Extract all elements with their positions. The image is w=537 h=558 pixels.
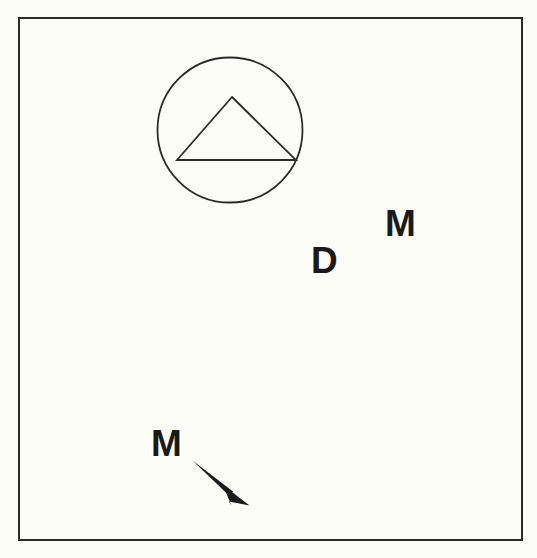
label-m-lower-left: M: [151, 423, 182, 464]
outer-border: [19, 18, 522, 540]
diagram-page: M D M: [0, 0, 537, 558]
circle-outline-icon: [158, 58, 303, 203]
circle-triangle-symbol: [158, 58, 303, 203]
leader-arrow-head-icon: [223, 485, 250, 506]
label-m-upper-right: M: [385, 203, 416, 244]
label-d: D: [311, 240, 338, 281]
diagram-canvas: M D M: [0, 0, 537, 558]
triangle-outline-icon: [177, 97, 296, 160]
leader-arrow: [193, 461, 250, 507]
